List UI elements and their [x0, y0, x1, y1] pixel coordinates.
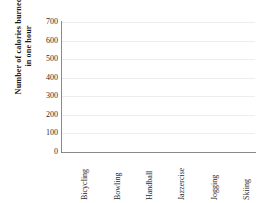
y-tick-label: 300 — [18, 92, 58, 100]
y-axis-line — [61, 21, 62, 153]
calories-burned-chart: Number of calories burned in one hour 01… — [0, 0, 267, 203]
gridline — [61, 115, 255, 116]
y-tick-label: 200 — [18, 111, 58, 119]
x-tick-label-text: Bicycling — [81, 169, 89, 200]
gridline — [61, 22, 255, 23]
gridline — [61, 133, 255, 134]
x-tick-label-text: Handball — [146, 171, 154, 200]
y-tick-label: 600 — [18, 37, 58, 45]
y-tick-label: 400 — [18, 74, 58, 82]
x-axis-tick-labels: BicyclingBowlingHandballJazzerciseJoggin… — [61, 152, 256, 203]
y-tick-label: 100 — [18, 129, 58, 137]
gridline — [61, 59, 255, 60]
x-tick-label-text: Bowling — [114, 172, 122, 200]
y-axis-tick-labels: 0100200300400500600700 — [14, 0, 58, 203]
x-tick-label-text: Jazzercise — [178, 168, 186, 200]
y-tick-label: 0 — [18, 148, 58, 156]
y-tick-label: 500 — [18, 55, 58, 63]
gridline — [61, 96, 255, 97]
x-tick-label-text: Skiing — [243, 179, 251, 200]
plot-area — [61, 22, 255, 152]
x-tick-label-text: Jogging — [211, 175, 219, 200]
gridline — [61, 41, 255, 42]
gridline — [61, 78, 255, 79]
y-tick-label: 700 — [18, 18, 58, 26]
